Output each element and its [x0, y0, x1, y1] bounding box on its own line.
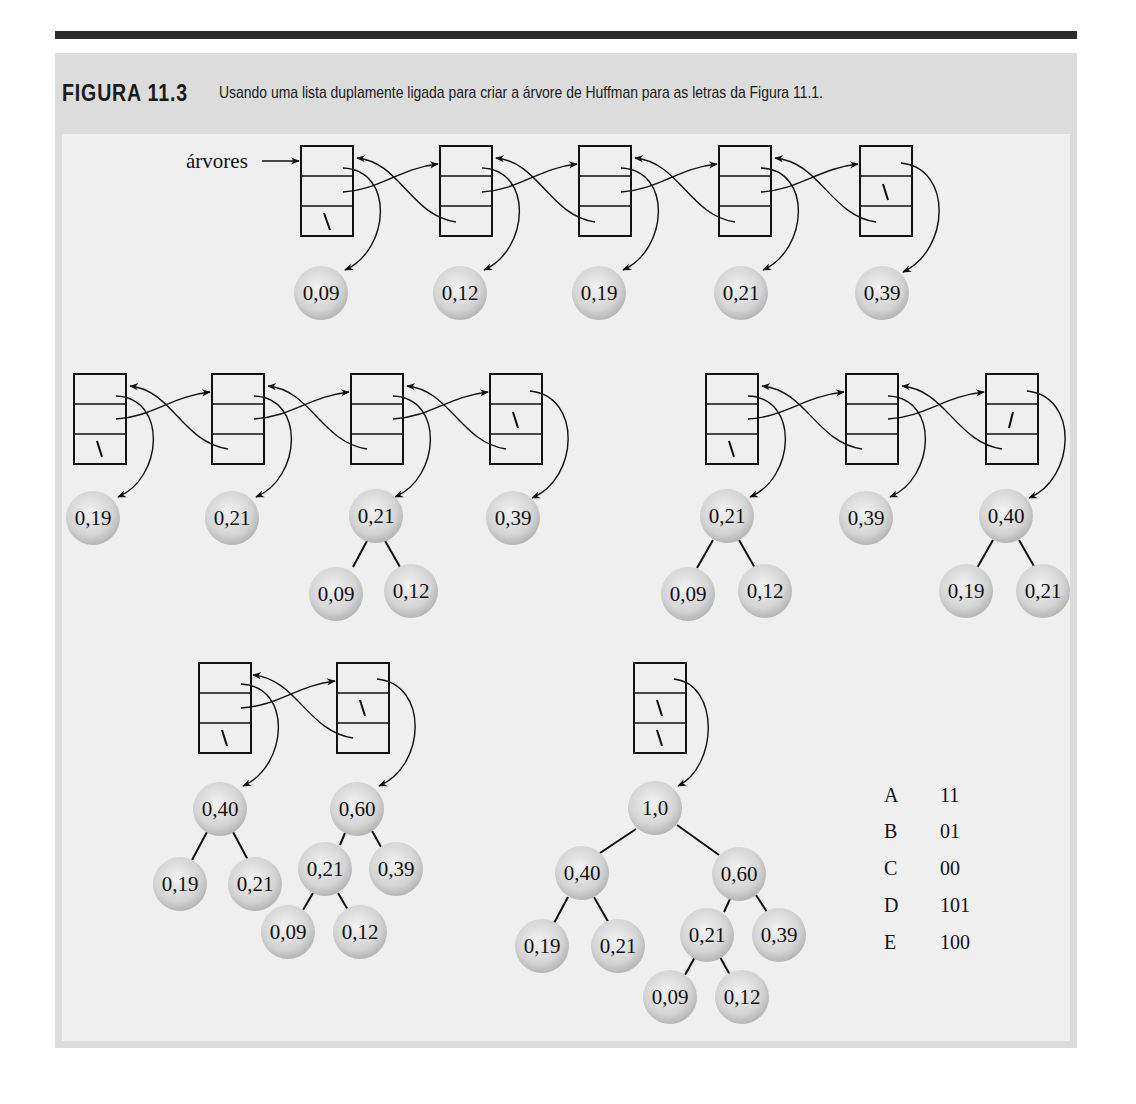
tree-node: 0,09	[643, 970, 697, 1024]
svg-text:0,21: 0,21	[709, 504, 746, 528]
svg-text:0,21: 0,21	[214, 506, 251, 530]
tree-node: 0,21	[591, 919, 645, 973]
svg-text:0,12: 0,12	[393, 579, 430, 603]
svg-text:0,09: 0,09	[270, 920, 307, 944]
tree-node: 0,19	[939, 564, 993, 618]
svg-text:01: 01	[940, 820, 960, 842]
svg-text:0,21: 0,21	[689, 923, 726, 947]
list-node	[440, 146, 492, 236]
null-mark	[657, 700, 662, 716]
stage-4: 0,40 0,60 0,19 0,21 0,21 0,39 0,09 0,12	[153, 663, 423, 959]
code-row: D 101	[884, 894, 970, 916]
null-mark	[324, 213, 330, 230]
null-mark	[1009, 412, 1013, 428]
code-row: A 11	[884, 784, 959, 806]
svg-text:0,09: 0,09	[652, 985, 689, 1009]
null-mark	[97, 441, 102, 457]
tree-node: 0,39	[486, 491, 540, 545]
tree-node: 0,09	[294, 266, 348, 320]
svg-text:0,39: 0,39	[378, 857, 415, 881]
null-mark	[657, 730, 662, 746]
svg-text:0,40: 0,40	[564, 861, 601, 885]
tree-node: 0,39	[839, 491, 893, 545]
tree-node: 0,12	[384, 564, 438, 618]
svg-text:1,0: 1,0	[642, 796, 668, 820]
svg-text:0,21: 0,21	[1025, 579, 1062, 603]
tree-node: 0,09	[309, 567, 363, 621]
tree-node: 0,09	[661, 567, 715, 621]
null-mark	[729, 441, 734, 457]
tree-node: 0,60	[712, 847, 766, 901]
svg-text:0,21: 0,21	[237, 872, 274, 896]
tree-node: 0,40	[979, 489, 1033, 543]
null-mark	[883, 184, 888, 200]
svg-text:0,60: 0,60	[721, 862, 758, 886]
svg-text:0,21: 0,21	[307, 857, 344, 881]
stage-2: 0,19 0,21 0,21 0,39 0,09 0,12	[66, 374, 568, 621]
svg-text:0,09: 0,09	[303, 281, 340, 305]
tree-node: 0,19	[66, 491, 120, 545]
code-row: C 00	[884, 857, 960, 879]
svg-text:0,12: 0,12	[342, 920, 379, 944]
tree-node: 0,21	[700, 489, 754, 543]
tree-node: 0,39	[369, 842, 423, 896]
svg-text:11: 11	[940, 784, 959, 806]
svg-text:0,21: 0,21	[358, 504, 395, 528]
svg-text:0,39: 0,39	[495, 506, 532, 530]
svg-text:A: A	[884, 784, 899, 806]
tree-node: 1,0	[628, 781, 682, 835]
tree-node: 0,19	[153, 857, 207, 911]
huffman-doubly-linked-list-diagram: árvores 0,09 0,12 0	[0, 0, 1136, 1104]
svg-text:C: C	[884, 857, 897, 879]
tree-node: 0,21	[228, 857, 282, 911]
svg-text:0,60: 0,60	[339, 797, 376, 821]
null-mark	[360, 700, 365, 716]
svg-text:0,12: 0,12	[442, 281, 479, 305]
tree-node: 0,21	[680, 908, 734, 962]
svg-text:E: E	[884, 931, 896, 953]
svg-text:0,19: 0,19	[162, 872, 199, 896]
svg-text:0,39: 0,39	[864, 281, 901, 305]
svg-text:0,21: 0,21	[600, 934, 637, 958]
tree-node: 0,21	[349, 489, 403, 543]
tree-node: 0,12	[738, 564, 792, 618]
tree-node: 0,40	[193, 782, 247, 836]
stage-1: árvores 0,09 0,12 0	[186, 146, 939, 320]
svg-text:0,19: 0,19	[524, 934, 561, 958]
tree-node: 0,21	[1016, 564, 1070, 618]
trees-pointer-label: árvores	[186, 149, 248, 173]
tree-node: 0,12	[715, 970, 769, 1024]
null-mark	[222, 730, 227, 746]
svg-text:0,19: 0,19	[948, 579, 985, 603]
svg-text:0,12: 0,12	[724, 985, 761, 1009]
svg-text:0,19: 0,19	[75, 506, 112, 530]
tree-node: 0,12	[433, 266, 487, 320]
stage-5: 1,0 0,40 0,60 0,19 0,21 0,21 0,39 0,09 0…	[515, 663, 806, 1024]
tree-node: 0,21	[714, 266, 768, 320]
stage-3: 0,21 0,39 0,40 0,09 0,12 0,19 0,21	[661, 374, 1070, 621]
svg-text:0,39: 0,39	[848, 506, 885, 530]
tree-node: 0,09	[261, 905, 315, 959]
tree-node: 0,21	[298, 842, 352, 896]
svg-text:00: 00	[940, 857, 960, 879]
svg-text:0,40: 0,40	[202, 797, 239, 821]
code-row: E 100	[884, 931, 970, 953]
tree-node: 0,40	[555, 846, 609, 900]
svg-text:D: D	[884, 894, 898, 916]
tree-node: 0,39	[855, 266, 909, 320]
svg-text:0,40: 0,40	[988, 504, 1025, 528]
svg-text:B: B	[884, 820, 897, 842]
huffman-code-table: A 11 B 01 C 00 D 101 E 100	[884, 784, 970, 953]
tree-node: 0,60	[330, 782, 384, 836]
svg-text:0,09: 0,09	[670, 582, 707, 606]
tree-node: 0,19	[515, 919, 569, 973]
tree-node: 0,39	[752, 908, 806, 962]
svg-text:0,09: 0,09	[318, 582, 355, 606]
svg-text:101: 101	[940, 894, 970, 916]
tree-node: 0,19	[572, 266, 626, 320]
svg-text:100: 100	[940, 931, 970, 953]
list-node	[579, 146, 631, 236]
null-mark	[513, 412, 518, 428]
tree-node: 0,12	[333, 905, 387, 959]
list-node	[719, 146, 771, 236]
